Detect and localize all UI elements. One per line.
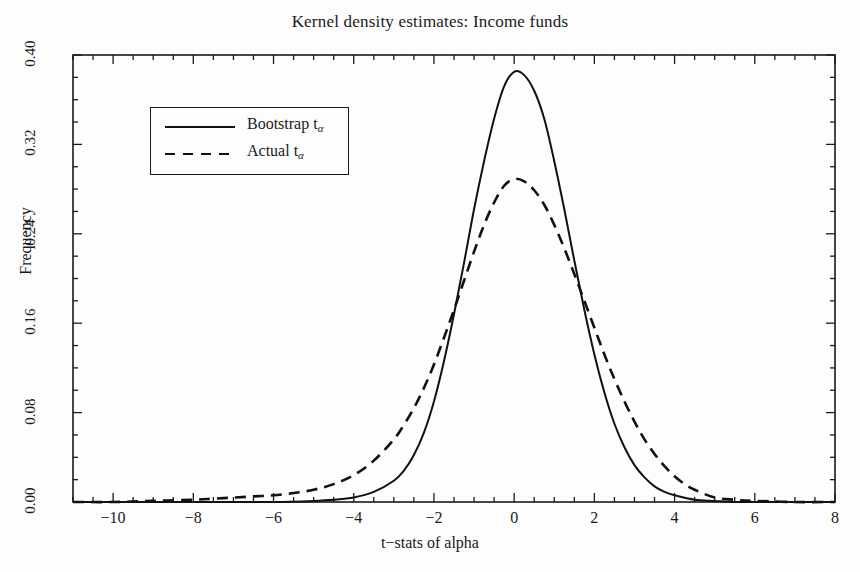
y-tick-label: 0.32 (22, 108, 39, 178)
legend-item-actual: Actual tα (151, 141, 348, 167)
plot-canvas (0, 0, 860, 572)
x-tick-label: 2 (571, 509, 617, 527)
legend-swatch-dashed (165, 153, 235, 155)
x-tick-label: −10 (90, 509, 136, 527)
x-tick-label: −4 (331, 509, 377, 527)
x-tick-label: −6 (251, 509, 297, 527)
y-tick-label: 0.08 (22, 376, 39, 446)
legend-swatch-solid (165, 126, 235, 128)
y-tick-label: 0.40 (22, 19, 39, 89)
x-tick-label: −8 (170, 509, 216, 527)
legend-item-bootstrap: Bootstrap tα (151, 114, 348, 140)
y-tick-label: 0.00 (22, 466, 39, 536)
y-tick-label: 0.16 (22, 287, 39, 357)
x-tick-label: 8 (812, 509, 858, 527)
x-tick-label: 4 (652, 509, 698, 527)
legend-label-bootstrap: Bootstrap tα (247, 115, 323, 134)
x-tick-label: 0 (491, 509, 537, 527)
x-tick-label: −2 (411, 509, 457, 527)
x-tick-label: 6 (732, 509, 778, 527)
chart-legend: Bootstrap tα Actual tα (150, 107, 349, 175)
series-line-actual (73, 179, 835, 502)
y-tick-label: 0.24 (22, 197, 39, 267)
chart-figure: Kernel density estimates: Income funds F… (0, 0, 860, 572)
legend-label-actual: Actual tα (247, 142, 304, 161)
